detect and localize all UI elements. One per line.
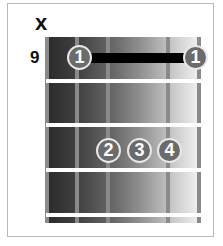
finger-dot: 4	[157, 138, 182, 163]
fret-line	[46, 213, 202, 217]
string-1	[45, 37, 49, 223]
fret-line	[46, 168, 202, 172]
barre-bar	[82, 53, 194, 63]
finger-dot: 2	[96, 138, 121, 163]
finger-dot: 1	[183, 45, 208, 70]
string-5	[166, 37, 170, 223]
finger-dot: 1	[67, 45, 92, 70]
fret-line	[46, 79, 202, 83]
string-3	[106, 37, 110, 223]
fret-line	[46, 123, 202, 127]
finger-dot: 3	[127, 138, 152, 163]
start-fret-number: 9	[30, 48, 39, 68]
muted-string-marker: x	[35, 13, 47, 33]
string-4	[135, 37, 139, 223]
